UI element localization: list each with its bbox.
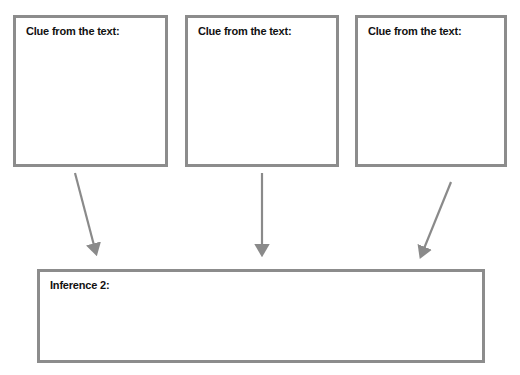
inference-box: Inference 2: — [37, 269, 485, 363]
inference-box-label: Inference 2: — [50, 279, 109, 291]
arrow-3-icon — [421, 182, 451, 256]
arrow-1-icon — [75, 173, 96, 253]
